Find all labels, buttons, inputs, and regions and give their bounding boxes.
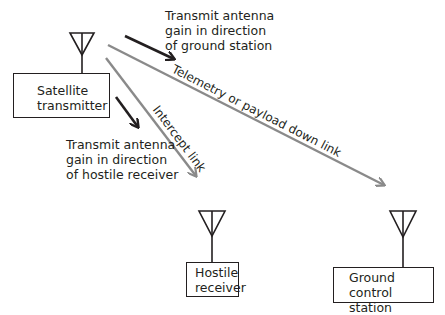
gain-ground-annotation: Transmit antenna gain in direction of gr…: [165, 8, 274, 53]
ground-label-line2: control station: [349, 285, 433, 315]
gain-ground-line3: of ground station: [165, 38, 274, 53]
satellite-label-line1: Satellite: [37, 83, 109, 98]
satellite-antenna-icon: [70, 33, 94, 73]
satellite-transmitter-box: Satellite transmitter: [13, 73, 110, 118]
hostile-label-line2: receiver: [195, 280, 238, 295]
gain-hostile-arrow: [116, 97, 138, 127]
hostile-antenna-icon: [199, 211, 225, 263]
gain-hostile-annotation: Transmit antenna gain in direction of ho…: [66, 137, 178, 182]
gain-hostile-line3: of hostile receiver: [66, 167, 178, 182]
gain-hostile-line1: Transmit antenna: [66, 137, 178, 152]
gain-ground-line2: gain in direction: [165, 23, 274, 38]
ground-label-line1: Ground: [349, 270, 433, 285]
hostile-receiver-box: Hostile receiver: [186, 262, 239, 297]
ground-control-station-box: Ground control station: [333, 267, 434, 303]
gain-ground-line1: Transmit antenna: [165, 8, 274, 23]
satellite-label-line2: transmitter: [37, 98, 109, 113]
gain-hostile-line2: gain in direction: [66, 152, 178, 167]
hostile-label-line1: Hostile: [195, 265, 238, 280]
ground-antenna-icon: [390, 211, 416, 268]
